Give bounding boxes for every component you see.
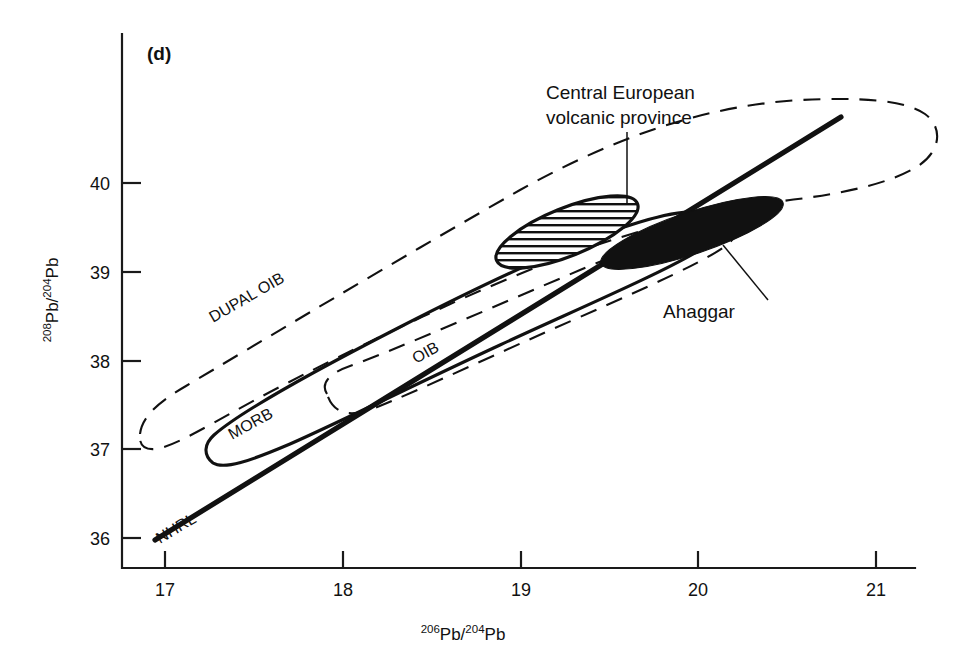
- annotation-central-european-line1: Central European: [546, 82, 695, 103]
- x-tick-label: 20: [688, 580, 708, 600]
- y-tick-label: 36: [90, 529, 110, 549]
- y-tick-label: 38: [90, 352, 110, 372]
- annotation-central-european-line2: volcanic province: [546, 107, 692, 128]
- x-tick-label: 21: [866, 580, 886, 600]
- y-tick-label: 40: [90, 174, 110, 194]
- figure-panel-d: 40 39 38 37 36 17 18 19 20 21 206Pb/204P…: [0, 0, 978, 670]
- panel-label: (d): [147, 43, 171, 64]
- x-tick-label: 18: [333, 580, 353, 600]
- y-tick-label: 39: [90, 263, 110, 283]
- x-tick-label: 19: [511, 580, 531, 600]
- annotation-ahaggar-label: Ahaggar: [663, 301, 736, 322]
- y-tick-label: 37: [90, 440, 110, 460]
- x-tick-label: 17: [155, 580, 175, 600]
